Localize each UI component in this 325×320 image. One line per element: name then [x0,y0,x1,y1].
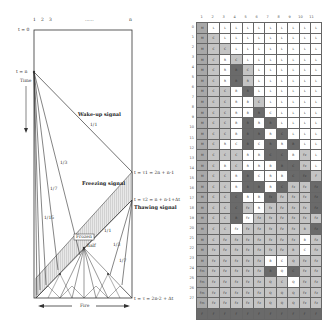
state-cell: F [197,309,208,320]
state-cell: L [288,128,299,139]
state-cell: M [197,128,208,139]
state-cell: M [197,54,208,65]
row-label: 27 [182,293,194,303]
state-cell: L [310,23,321,34]
state-cell: C [276,128,287,139]
state-cell: Fz [242,287,253,298]
state-cell: Fz [208,287,219,298]
state-cell: Fz [310,245,321,256]
state-cell: L [253,44,264,55]
row-label: 18 [182,203,194,213]
state-cell: B [242,139,253,150]
state-cell: R [253,160,264,171]
state-cell: Fz [253,213,264,224]
state-cell: Q [276,287,287,298]
row-label: 1 [182,32,194,42]
state-cell: Fz [310,256,321,267]
state-cell: L [276,107,287,118]
state-cell: C [208,44,219,55]
state-cell: L [299,128,310,139]
state-cell: B [231,213,242,224]
state-cell: Q [276,266,287,277]
column-label: 1 [196,15,207,19]
state-cell: R [242,86,253,97]
row-label: 12 [182,143,194,153]
state-cell: C [208,192,219,203]
state-cell: R [265,171,276,182]
state-cell: L [310,107,321,118]
state-cell: Fz [265,234,276,245]
state-cell: L [276,23,287,34]
state-cell: F [219,309,230,320]
state-cell: L [299,23,310,34]
state-cell: Fz [276,192,287,203]
state-cell: C [288,160,299,171]
state-cell: C [219,86,230,97]
state-cell: L [299,139,310,150]
state-cell: L [231,33,242,44]
state-cell: Fz [299,213,310,224]
column-label: 5 [240,15,251,19]
state-cell: L [253,33,264,44]
state-cell: Fz [310,203,321,214]
state-cell: L [265,75,276,86]
state-cell: F [265,309,276,320]
state-cell: Fz [310,298,321,309]
half-label: half [87,243,96,248]
column-labels: 1234567891011 [196,15,317,19]
row-label: 8 [182,102,194,112]
state-cell: Fz [299,298,310,309]
state-cell: C [208,224,219,235]
state-transition-table: 1234567891011 01234567891011121314151617… [182,14,325,314]
state-cell: Fz [231,266,242,277]
state-cell: L [310,128,321,139]
state-cell: C [219,128,230,139]
state-cell: C [208,33,219,44]
state-cell: B [288,150,299,161]
state-cell: C [208,128,219,139]
state-cell: B [265,256,276,267]
state-cell: M [197,203,208,214]
table-row: MCCBFzFzFzFzFzFzFz [197,213,322,224]
state-cell: Fz [310,213,321,224]
state-cell: B [231,65,242,76]
state-cell: B [253,150,264,161]
state-cell: C [219,118,230,129]
state-cell: L [299,97,310,108]
time-label-tau2: t = τ2 = n + n-1+Δt [134,197,180,202]
state-cell: L [299,54,310,65]
state-cell: L [265,33,276,44]
state-cell: R [219,65,230,76]
state-cell: R [253,203,264,214]
state-cell: B [265,160,276,171]
state-cell: B [288,139,299,150]
row-labels: 0123456789101112131415161718192021222324… [182,22,194,303]
state-cell: B [299,234,310,245]
state-cell: L [242,33,253,44]
state-cell: L [276,86,287,97]
state-cell: R [242,75,253,86]
state-cell: L [288,54,299,65]
state-cell: Fz [253,277,264,288]
state-grid: MLLLLLLLLLLMCLLLLLLLLLMCCLLLLLLLLMCRCLLL… [196,22,322,320]
state-cell: C [208,86,219,97]
state-cell: Fz [253,287,264,298]
state-cell: B [231,118,242,129]
state-cell: M [197,192,208,203]
state-cell: Fz [242,245,253,256]
table-row: MCCCRBFzFzFzFzFz [197,192,322,203]
state-cell: Fz [208,245,219,256]
state-cell: R [242,192,253,203]
slope-label-1: 1/1 [90,122,97,127]
row-label: 3 [182,52,194,62]
state-cell: R [253,118,264,129]
state-cell: L [253,65,264,76]
state-cell: M [197,75,208,86]
state-cell: L [276,44,287,55]
state-cell: L [265,86,276,97]
state-cell: C [231,192,242,203]
state-cell: Fz [231,234,242,245]
state-cell: L [276,75,287,86]
state-cell: Fz [242,256,253,267]
state-cell: C [219,150,230,161]
